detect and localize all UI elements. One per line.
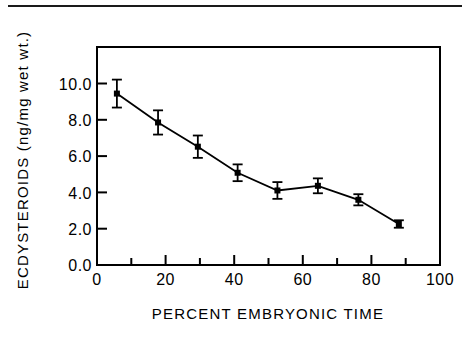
x-axis-title: PERCENT EMBRYONIC TIME [152,305,384,322]
error-bars [112,80,404,228]
x-tick-label: 60 [293,271,312,288]
data-series-line [117,94,399,224]
data-point-marker [114,91,120,97]
x-axis-minor-ticks [131,258,405,265]
x-tick-label: 40 [225,271,244,288]
y-tick-label: 6.0 [68,148,92,165]
ecdysteroids-line-chart: 10.0 8.0 6.0 4.0 2.0 0.0 0 20 [0,0,470,338]
x-tick-label: 0 [92,271,101,288]
data-point-marker [355,197,361,203]
x-tick-label: 20 [156,271,175,288]
data-point-marker [315,183,321,189]
figure-container: 10.0 8.0 6.0 4.0 2.0 0.0 0 20 [0,0,470,338]
x-tick-label: 80 [362,271,381,288]
y-tick-label: 8.0 [68,112,92,129]
x-tick-label: 100 [426,271,454,288]
y-tick-label: 10.0 [59,76,92,93]
x-axis-tick-labels: 0 20 40 60 80 100 [92,271,454,288]
plot-frame [97,47,440,265]
y-tick-label: 4.0 [68,185,92,202]
y-axis-ticks [97,84,107,266]
data-point-marker [396,221,402,227]
y-axis-title: ECDYSTEROIDS (ng/mg wet wt.) [14,31,31,290]
data-point-marker [235,170,241,176]
y-tick-label: 0.0 [68,257,92,274]
data-point-marker [195,144,201,150]
y-tick-label: 2.0 [68,221,92,238]
data-point-marker [155,119,161,125]
y-axis-tick-labels: 10.0 8.0 6.0 4.0 2.0 0.0 [59,76,92,274]
data-point-marker [274,187,280,193]
